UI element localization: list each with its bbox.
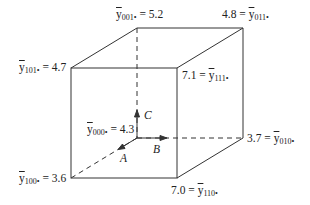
corner-label-100: y100• = 3.6 — [19, 173, 66, 185]
corner-label-011: 4.8 = y011• — [222, 9, 269, 21]
axis-label-c: C — [144, 110, 152, 122]
corner-label-000: y000• = 4.3 — [87, 124, 134, 136]
axis-c-arrowhead — [135, 110, 140, 117]
top-left-depth-edge — [71, 28, 137, 68]
corner-label-101: y101• = 4.7 — [19, 62, 66, 74]
corner-label-111: 7.1 = y111• — [182, 70, 229, 82]
corner-label-001: y001• = 5.2 — [116, 9, 163, 21]
corner-label-110: 7.0 = y110• — [171, 185, 218, 197]
top-right-depth-edge — [177, 28, 243, 68]
axis-a-arrow — [122, 138, 137, 147]
axis-label-a: A — [120, 153, 127, 165]
corner-label-010: 3.7 = y010• — [247, 133, 294, 145]
bottom-right-depth-edge — [177, 138, 243, 178]
axis-label-b: B — [153, 144, 160, 156]
axis-a-arrowhead — [118, 144, 125, 150]
axis-b-arrowhead — [160, 136, 167, 141]
